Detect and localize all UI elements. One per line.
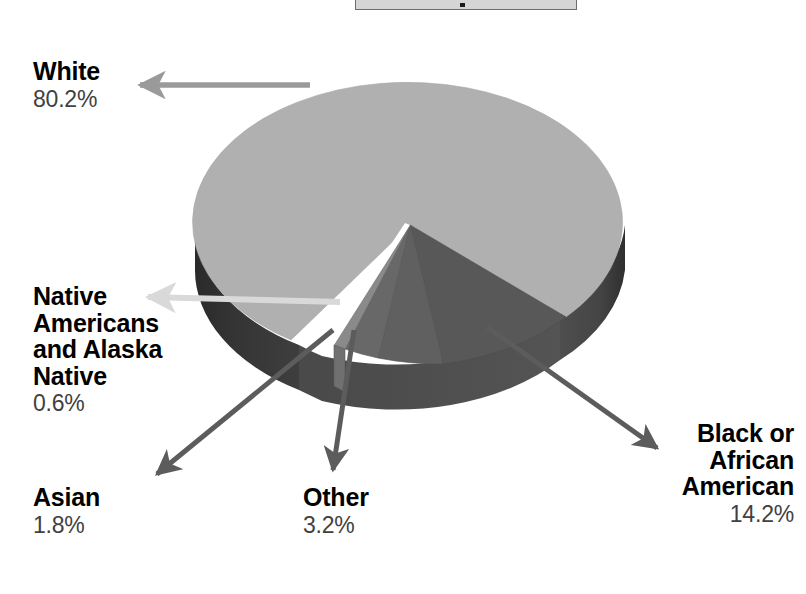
- slice-label-black-african-american-value: 14.2%: [554, 502, 794, 526]
- slice-label-asian: Asian 1.8%: [33, 484, 100, 537]
- pie-chart-figure: White 80.2% Native Americans and Alaska …: [0, 0, 806, 594]
- slice-label-white: White 80.2%: [33, 58, 100, 111]
- slice-label-other-value: 3.2%: [303, 513, 369, 537]
- slice-label-asian-value: 1.8%: [33, 513, 100, 537]
- slice-label-white-value: 80.2%: [33, 87, 100, 111]
- slice-label-native-american-value: 0.6%: [33, 391, 238, 415]
- slice-label-native-american-name: Native Americans and Alaska Native: [33, 283, 238, 389]
- slice-label-black-african-american-name: Black or African American: [554, 420, 794, 500]
- slice-label-native-american: Native Americans and Alaska Native 0.6%: [33, 283, 238, 415]
- slice-label-other-name: Other: [303, 484, 369, 511]
- slice-label-black-african-american: Black or African American 14.2%: [554, 420, 794, 526]
- slice-label-other: Other 3.2%: [303, 484, 369, 537]
- slice-label-white-name: White: [33, 58, 100, 85]
- slice-label-asian-name: Asian: [33, 484, 100, 511]
